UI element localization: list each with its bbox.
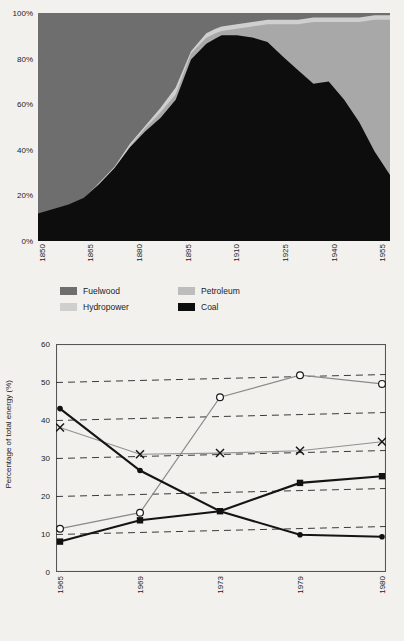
x-tick-label: 1865 — [86, 244, 95, 262]
bottom-chart-y-axis-title: Percentage of total energy (%) — [4, 380, 13, 491]
legend-swatch-petroleum — [178, 287, 195, 295]
y-tick-label: 50 — [41, 378, 50, 387]
y-tick-label: 30 — [41, 454, 50, 463]
legend-swatch-fuelwood — [60, 287, 77, 295]
legend-label: Petroleum — [201, 286, 240, 296]
series-markers-coal — [56, 424, 386, 459]
y-tick-label: 60 — [41, 340, 50, 349]
series-line-fuelwood — [60, 409, 382, 537]
x-tick-label: 1955 — [378, 244, 387, 262]
y-tick-label: 100% — [13, 9, 33, 18]
x-tick-label: 1940 — [330, 244, 339, 262]
legend-label: Fuelwood — [83, 286, 120, 296]
legend-item-hydropower: Hydropower — [60, 302, 129, 312]
bottom-chart-svg — [56, 344, 386, 572]
x-tick-label: 1880 — [135, 244, 144, 262]
series-markers-electricity — [57, 473, 385, 545]
top-chart-plot-area — [38, 13, 390, 241]
line-chart: Percentage of total energy (%) 60 50 40 … — [0, 330, 404, 641]
top-chart-svg — [38, 13, 390, 241]
legend-label: Hydropower — [83, 302, 129, 312]
y-tick-label: 20% — [17, 191, 33, 200]
x-tick-label: 1973 — [216, 576, 225, 594]
y-tick-label: 80% — [17, 54, 33, 63]
legend-swatch-coal — [178, 303, 195, 311]
x-tick-label: 1895 — [184, 244, 193, 262]
x-tick-label: 1979 — [296, 576, 305, 594]
legend-swatch-hydropower — [60, 303, 77, 311]
x-tick-label: 1965 — [56, 576, 65, 594]
x-tick-label: 1980 — [378, 576, 387, 594]
gridline-40 — [56, 413, 386, 421]
legend-item-fuelwood: Fuelwood — [60, 286, 120, 296]
bottom-chart-plot-area — [56, 344, 386, 572]
top-chart-x-axis: 1850 1865 1880 1895 1910 1925 1940 1955 — [38, 244, 390, 284]
top-chart-legend: Fuelwood Hydropower Petroleum Coal — [60, 286, 320, 318]
y-tick-label: 10 — [41, 529, 50, 538]
y-tick-label: 0 — [46, 568, 50, 577]
legend-label: Coal — [201, 302, 218, 312]
figure-page: 100% 80% 60% 40% 20% 0% 1850 1865 — [0, 0, 404, 641]
legend-item-coal: Coal — [178, 302, 218, 312]
top-chart-y-axis: 100% 80% 60% 40% 20% 0% — [0, 13, 35, 241]
y-tick-label: 40 — [41, 415, 50, 424]
y-tick-label: 60% — [17, 100, 33, 109]
y-tick-label: 40% — [17, 145, 33, 154]
x-tick-label: 1925 — [281, 244, 290, 262]
x-tick-label: 1910 — [232, 244, 241, 262]
y-tick-label: 20 — [41, 492, 50, 501]
y-axis-title-text: Percentage of total energy (%) — [4, 380, 13, 489]
series-line-coal — [60, 428, 382, 455]
x-tick-label: 1969 — [136, 576, 145, 594]
x-tick-label: 1850 — [38, 244, 47, 262]
gridline-20 — [56, 489, 386, 497]
legend-item-petroleum: Petroleum — [178, 286, 240, 296]
bottom-chart-y-axis: 60 50 40 30 20 10 0 — [22, 344, 52, 572]
bottom-chart-x-axis: 1965 1969 1973 1979 1980 — [56, 576, 386, 616]
y-tick-label: 0% — [21, 237, 33, 246]
stacked-area-chart: 100% 80% 60% 40% 20% 0% 1850 1865 — [0, 0, 404, 282]
